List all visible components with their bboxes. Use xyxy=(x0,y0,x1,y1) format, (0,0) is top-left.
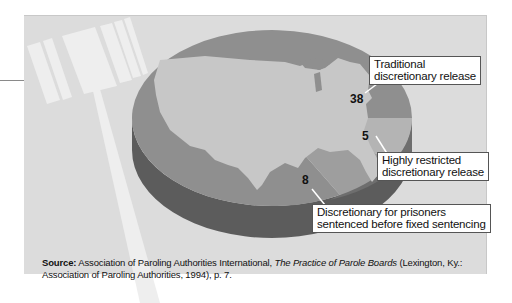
callout-fixed: Discretionary for prisoners sentenced be… xyxy=(312,204,491,233)
value-traditional: 38 xyxy=(350,92,363,106)
source-line2: Association of Paroling Authorities, 199… xyxy=(42,269,462,281)
source-title: The Practice of Parole Boards xyxy=(275,257,397,268)
callout-line: sentenced before fixed sentencing xyxy=(317,218,486,230)
source-note: Source: Association of Paroling Authorit… xyxy=(42,257,462,281)
value-restricted: 5 xyxy=(362,129,369,143)
callout-line: Traditional xyxy=(374,58,476,70)
source-text: Association of Paroling Authorities Inte… xyxy=(76,257,274,268)
source-label: Source: xyxy=(42,257,76,268)
callout-line: Highly restricted xyxy=(382,154,484,166)
source-text: (Lexington, Ky.: xyxy=(397,257,462,268)
callout-line: Discretionary for prisoners xyxy=(317,206,486,218)
callout-line: discretionary release xyxy=(382,166,484,178)
callout-line: discretionary release xyxy=(374,70,476,82)
value-fixed: 8 xyxy=(302,173,309,187)
callout-traditional: Traditional discretionary release xyxy=(369,56,481,85)
callout-restricted: Highly restricted discretionary release xyxy=(377,152,489,181)
